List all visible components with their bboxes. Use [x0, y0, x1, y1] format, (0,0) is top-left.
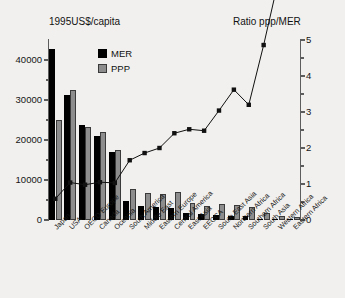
- legend-swatch-icon: [98, 64, 107, 73]
- legend-label: MER: [111, 48, 132, 59]
- right-axis-title: Ratio ppp/MER: [233, 16, 301, 27]
- right-tick-label: 1: [306, 178, 311, 189]
- ratio-polyline: [55, 0, 293, 199]
- right-tick: [301, 75, 305, 76]
- ratio-marker: [232, 87, 236, 91]
- right-tick-label: 2: [306, 142, 311, 153]
- right-tick-label: 4: [306, 70, 311, 81]
- left-tick-label: 40000: [16, 54, 42, 65]
- ratio-marker: [128, 158, 132, 162]
- right-tick: [301, 183, 305, 184]
- legend-label: PPP: [111, 63, 130, 74]
- ratio-marker: [187, 127, 191, 131]
- right-tick: [301, 147, 305, 148]
- right-minor-tick: [301, 129, 304, 130]
- legend-swatch-icon: [98, 49, 107, 58]
- ratio-marker: [157, 146, 161, 150]
- left-tick-label: 30000: [16, 94, 42, 105]
- ratio-marker: [53, 197, 57, 201]
- ratio-marker: [202, 129, 206, 133]
- ratio-marker: [98, 180, 102, 184]
- left-tick-label: 10000: [16, 174, 42, 185]
- right-minor-tick: [301, 93, 304, 94]
- ratio-marker: [113, 181, 117, 185]
- right-tick-label: 5: [306, 34, 311, 45]
- ratio-marker: [261, 43, 265, 47]
- ratio-marker: [83, 183, 87, 187]
- legend-item: MER: [98, 47, 132, 60]
- ratio-marker: [247, 103, 251, 107]
- legend-item: PPP: [98, 62, 132, 75]
- ratio-marker: [142, 151, 146, 155]
- ratio-marker: [68, 180, 72, 184]
- chart-canvas: 1995US$/capita Ratio ppp/MER 01000020000…: [0, 0, 345, 298]
- left-tick-label: 0: [37, 214, 42, 225]
- right-minor-tick: [301, 57, 304, 58]
- chart-legend: MERPPP: [98, 47, 132, 77]
- right-tick-label: 3: [306, 106, 311, 117]
- right-minor-tick: [301, 165, 304, 166]
- left-axis-title: 1995US$/capita: [49, 16, 120, 27]
- right-tick: [301, 111, 305, 112]
- ratio-marker: [172, 131, 176, 135]
- left-tick-label: 20000: [16, 134, 42, 145]
- right-tick: [301, 39, 305, 40]
- ratio-marker: [217, 108, 221, 112]
